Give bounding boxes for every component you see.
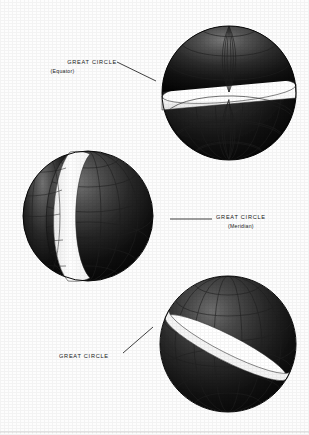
label-great-circle-oblique: GREAT CIRCLE [59,352,109,361]
sphere-sliced-meridian [23,151,153,281]
label-great-circle-meridian: GREAT CIRCLE (Meridian) [216,213,266,230]
label-meridian-sub: (Meridian) [216,222,266,230]
label-oblique-title: GREAT CIRCLE [59,353,109,359]
leader-line-equator [117,62,156,81]
label-great-circle-equator: GREAT CIRCLE (Equator) [8,58,117,75]
sphere-sliced-equatorial [161,24,296,160]
leader-line-oblique [123,327,153,353]
sphere-sliced-oblique [160,249,309,412]
label-meridian-title: GREAT CIRCLE [216,214,266,220]
label-equator-sub: (Equator) [8,67,117,75]
label-equator-title: GREAT CIRCLE [67,59,117,65]
